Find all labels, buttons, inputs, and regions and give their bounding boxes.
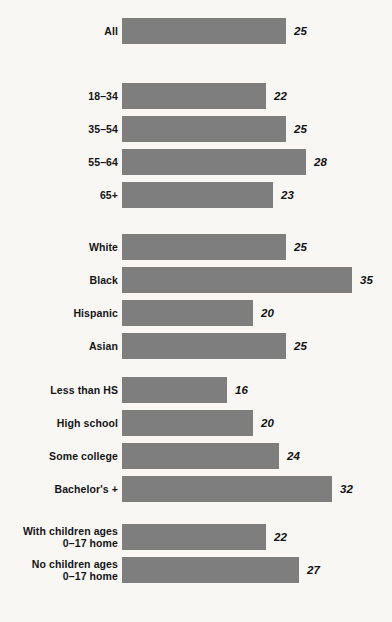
bar-track xyxy=(122,149,306,175)
bar-value-label: 20 xyxy=(261,300,274,326)
bar-category-label: No children ages0–17 home xyxy=(32,557,118,583)
bar-category-label-line: 35–54 xyxy=(88,123,118,136)
bar-fill xyxy=(122,377,227,403)
bar-category-label-line: Bachelor's + xyxy=(54,483,118,496)
bar-category-label-line: Hispanic xyxy=(73,307,118,320)
bar-category-label-line: Asian xyxy=(89,340,118,353)
bar-track xyxy=(122,116,286,142)
bar-row: Some college24 xyxy=(0,443,392,469)
bar-value-label: 23 xyxy=(281,182,294,208)
bar-fill xyxy=(122,410,253,436)
bar-category-label-line: Less than HS xyxy=(50,384,118,397)
bar-row: With children ages0–17 home22 xyxy=(0,524,392,550)
bar-value-label: 32 xyxy=(340,476,353,502)
bar-row: Asian25 xyxy=(0,333,392,359)
bar-category-label-line: With children ages xyxy=(23,525,118,538)
bar-row: Black35 xyxy=(0,267,392,293)
bar-category-label-line: Black xyxy=(89,274,118,287)
bar-fill xyxy=(122,83,266,109)
bar-track xyxy=(122,410,253,436)
bar-category-label: White xyxy=(89,234,118,260)
bar-category-label-line: 0–17 home xyxy=(63,537,118,550)
bar-category-label: Bachelor's + xyxy=(54,476,118,502)
bar-value-label: 22 xyxy=(274,524,287,550)
bar-category-label-line: All xyxy=(104,25,118,38)
bar-fill xyxy=(122,524,266,550)
bar-category-label-line: 65+ xyxy=(100,189,118,202)
bar-value-label: 35 xyxy=(360,267,373,293)
bar-category-label-line: 18–34 xyxy=(88,90,118,103)
bar-row: Hispanic20 xyxy=(0,300,392,326)
bar-category-label-line: No children ages xyxy=(32,558,118,571)
bar-category-label: 65+ xyxy=(100,182,118,208)
bar-track xyxy=(122,267,352,293)
bar-fill xyxy=(122,182,273,208)
bar-value-label: 20 xyxy=(261,410,274,436)
bar-track xyxy=(122,476,332,502)
bar-category-label: Less than HS xyxy=(50,377,118,403)
bar-track xyxy=(122,18,286,44)
bar-track xyxy=(122,524,266,550)
bar-value-label: 25 xyxy=(294,234,307,260)
bar-track xyxy=(122,234,286,260)
bar-track xyxy=(122,333,286,359)
bar-value-label: 27 xyxy=(307,557,320,583)
bar-row: Bachelor's +32 xyxy=(0,476,392,502)
bar-track xyxy=(122,443,279,469)
bar-category-label-line: Some college xyxy=(49,450,118,463)
bar-value-label: 22 xyxy=(274,83,287,109)
bar-category-label: High school xyxy=(57,410,118,436)
bar-fill xyxy=(122,476,332,502)
bar-value-label: 28 xyxy=(314,149,327,175)
bar-value-label: 24 xyxy=(287,443,300,469)
bar-row: Less than HS16 xyxy=(0,377,392,403)
bar-category-label: 55–64 xyxy=(88,149,118,175)
bar-fill xyxy=(122,116,286,142)
bar-category-label: With children ages0–17 home xyxy=(23,524,118,550)
bar-fill xyxy=(122,300,253,326)
bar-value-label: 16 xyxy=(235,377,248,403)
bar-row: White25 xyxy=(0,234,392,260)
bar-fill xyxy=(122,234,286,260)
bar-category-label: Black xyxy=(89,267,118,293)
bar-category-label: Some college xyxy=(49,443,118,469)
bar-track xyxy=(122,182,273,208)
bar-value-label: 25 xyxy=(294,116,307,142)
bar-fill xyxy=(122,267,352,293)
bar-category-label-line: High school xyxy=(57,417,118,430)
bar-row: 18–3422 xyxy=(0,83,392,109)
bar-row: No children ages0–17 home27 xyxy=(0,557,392,583)
bar-value-label: 25 xyxy=(294,18,307,44)
bar-row: All25 xyxy=(0,18,392,44)
bar-chart: All2518–342235–542555–642865+23White25Bl… xyxy=(0,0,392,622)
bar-row: 65+23 xyxy=(0,182,392,208)
bar-category-label: 35–54 xyxy=(88,116,118,142)
bar-fill xyxy=(122,149,306,175)
bar-row: High school20 xyxy=(0,410,392,436)
bar-category-label-line: 0–17 home xyxy=(63,570,118,583)
bar-category-label: Hispanic xyxy=(73,300,118,326)
bar-track xyxy=(122,557,299,583)
bar-category-label: 18–34 xyxy=(88,83,118,109)
bar-track xyxy=(122,377,227,403)
bar-fill xyxy=(122,557,299,583)
bar-value-label: 25 xyxy=(294,333,307,359)
bar-category-label: Asian xyxy=(89,333,118,359)
bar-category-label: All xyxy=(104,18,118,44)
bar-fill xyxy=(122,18,286,44)
bar-track xyxy=(122,300,253,326)
bar-row: 55–6428 xyxy=(0,149,392,175)
bar-category-label-line: White xyxy=(89,241,118,254)
bar-fill xyxy=(122,333,286,359)
bar-category-label-line: 55–64 xyxy=(88,156,118,169)
bar-fill xyxy=(122,443,279,469)
bar-track xyxy=(122,83,266,109)
bar-row: 35–5425 xyxy=(0,116,392,142)
